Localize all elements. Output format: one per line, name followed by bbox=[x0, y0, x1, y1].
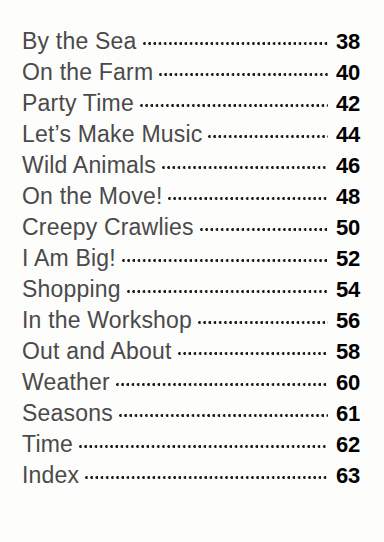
dot-leader bbox=[208, 119, 328, 142]
toc-entry[interactable]: On the Move!48 bbox=[22, 181, 360, 212]
toc-entry[interactable]: Let’s Make Music44 bbox=[22, 119, 360, 150]
toc-entry[interactable]: Out and About58 bbox=[22, 336, 360, 367]
dot-leader bbox=[119, 398, 328, 421]
toc-entry-title: I Am Big! bbox=[22, 243, 122, 274]
toc-entry-title: Party Time bbox=[22, 88, 140, 119]
toc-entry-title: Creepy Crawlies bbox=[22, 212, 200, 243]
toc-entry-page-number: 48 bbox=[330, 181, 360, 212]
toc-entry[interactable]: Index63 bbox=[22, 460, 360, 491]
toc-entry-page-number: 58 bbox=[330, 336, 360, 367]
toc-entry-page-number: 44 bbox=[330, 119, 360, 150]
dot-leader bbox=[143, 26, 328, 49]
dot-leader bbox=[168, 181, 328, 204]
toc-entry-page-number: 46 bbox=[330, 150, 360, 181]
toc-entry-page-number: 50 bbox=[330, 212, 360, 243]
toc-entry[interactable]: Party Time42 bbox=[22, 88, 360, 119]
dot-leader bbox=[159, 57, 328, 80]
toc-entry-page-number: 63 bbox=[330, 460, 360, 491]
dot-leader bbox=[127, 274, 328, 297]
toc-entry-title: On the Move! bbox=[22, 181, 168, 212]
toc-entry[interactable]: Shopping54 bbox=[22, 274, 360, 305]
toc-entry[interactable]: Wild Animals46 bbox=[22, 150, 360, 181]
toc-entry-title: Let’s Make Music bbox=[22, 119, 208, 150]
toc-entry-page-number: 62 bbox=[330, 429, 360, 460]
dot-leader bbox=[198, 305, 328, 328]
toc-entry[interactable]: Weather60 bbox=[22, 367, 360, 398]
dot-leader bbox=[116, 367, 328, 390]
toc-entry[interactable]: On the Farm40 bbox=[22, 57, 360, 88]
dot-leader bbox=[122, 243, 328, 266]
toc-entry-page-number: 60 bbox=[330, 367, 360, 398]
table-of-contents: By the Sea38On the Farm40Party Time42Let… bbox=[0, 0, 384, 542]
toc-entry-title: In the Workshop bbox=[22, 305, 198, 336]
toc-entry[interactable]: Seasons61 bbox=[22, 398, 360, 429]
toc-entry-title: By the Sea bbox=[22, 26, 143, 57]
toc-entry[interactable]: In the Workshop56 bbox=[22, 305, 360, 336]
toc-entry-page-number: 42 bbox=[330, 88, 360, 119]
toc-entry-title: On the Farm bbox=[22, 57, 159, 88]
dot-leader bbox=[85, 460, 328, 483]
toc-entry[interactable]: I Am Big!52 bbox=[22, 243, 360, 274]
toc-entry-title: Index bbox=[22, 460, 85, 491]
toc-entry-title: Out and About bbox=[22, 336, 178, 367]
toc-entry-page-number: 52 bbox=[330, 243, 360, 274]
toc-entry-title: Time bbox=[22, 429, 79, 460]
toc-entry[interactable]: By the Sea38 bbox=[22, 26, 360, 57]
toc-entry-page-number: 54 bbox=[330, 274, 360, 305]
dot-leader bbox=[162, 150, 328, 173]
toc-entry-title: Wild Animals bbox=[22, 150, 162, 181]
toc-entry-title: Seasons bbox=[22, 398, 119, 429]
dot-leader bbox=[200, 212, 328, 235]
toc-entry-page-number: 61 bbox=[330, 398, 360, 429]
dot-leader bbox=[178, 336, 328, 359]
toc-entry-page-number: 56 bbox=[330, 305, 360, 336]
toc-entry-title: Weather bbox=[22, 367, 116, 398]
toc-entry[interactable]: Time62 bbox=[22, 429, 360, 460]
toc-entry-page-number: 40 bbox=[330, 57, 360, 88]
dot-leader bbox=[79, 429, 328, 452]
dot-leader bbox=[140, 88, 328, 111]
toc-entry[interactable]: Creepy Crawlies50 bbox=[22, 212, 360, 243]
toc-entry-page-number: 38 bbox=[330, 26, 360, 57]
toc-entry-title: Shopping bbox=[22, 274, 127, 305]
